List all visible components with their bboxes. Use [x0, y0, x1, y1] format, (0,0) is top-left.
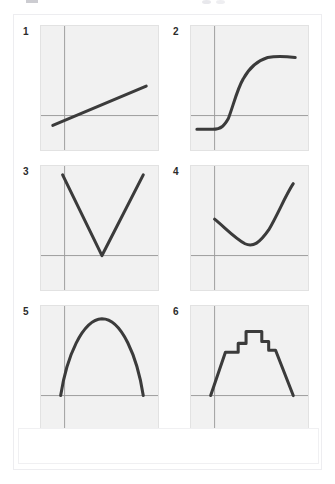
panel-number-label: 6	[173, 307, 179, 317]
plot-area-2	[190, 25, 309, 151]
graph-panel-3[interactable]: 3	[18, 161, 168, 301]
plot-area-3	[40, 165, 159, 291]
curve-path	[61, 319, 144, 396]
curve-path	[53, 86, 146, 125]
panel-number-label: 5	[23, 307, 29, 317]
graph-panel-5[interactable]: 5	[18, 301, 168, 441]
plot-area-5	[40, 305, 159, 431]
artifact-mark-left	[26, 0, 38, 3]
top-cropped-artifacts	[0, 0, 335, 10]
plot-area-1	[40, 25, 159, 151]
graph-grid: 1 2 3	[18, 21, 319, 441]
curve-path	[211, 332, 294, 396]
curve-path	[215, 184, 294, 245]
graph-panel-6[interactable]: 6	[168, 301, 318, 441]
plot-area-6	[190, 305, 309, 431]
artifact-mark-right-b	[216, 0, 225, 4]
plot-area-4	[190, 165, 309, 291]
graph-panel-4[interactable]: 4	[168, 161, 318, 301]
panel-number-label: 1	[23, 27, 29, 37]
graph-panel-1[interactable]: 1	[18, 21, 168, 161]
panel-number-label: 4	[173, 167, 179, 177]
graph-panel-2[interactable]: 2	[168, 21, 318, 161]
panel-number-label: 2	[173, 27, 179, 37]
card-footer-strip	[18, 428, 319, 464]
artifact-mark-right-a	[202, 0, 211, 4]
worksheet-card: 1 2 3	[13, 14, 322, 470]
curve-path	[63, 175, 144, 256]
curve-path	[197, 56, 295, 129]
panel-number-label: 3	[23, 167, 29, 177]
